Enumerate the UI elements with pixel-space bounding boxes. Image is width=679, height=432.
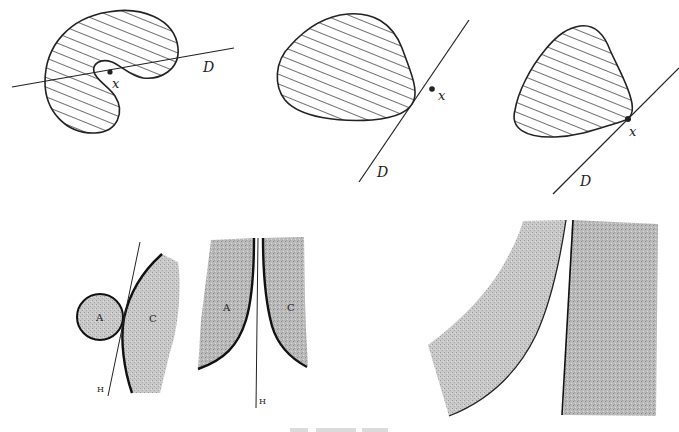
rectangular-region	[563, 220, 658, 416]
point-x	[107, 69, 112, 74]
convex-region	[514, 26, 632, 137]
line-d-label: D	[202, 59, 214, 75]
figure-bottom-right	[428, 220, 658, 416]
figure-bottom-middle: A C H	[198, 237, 308, 408]
set-a-label: A	[222, 302, 231, 313]
convex-region	[277, 14, 415, 121]
figure-top-left: x D	[12, 11, 234, 134]
line-h-label: H	[97, 385, 104, 394]
point-x-label: x	[112, 76, 120, 91]
set-c-label: C	[149, 313, 157, 324]
line-d-label: D	[376, 164, 388, 180]
caption-remnant	[290, 428, 388, 432]
point-x	[429, 86, 435, 92]
point-x	[625, 116, 631, 122]
line-h	[256, 238, 258, 408]
set-a-label: A	[95, 312, 104, 323]
region-c	[263, 237, 308, 366]
figure-canvas: x D x D x D A C H A C H	[0, 0, 679, 432]
line-h-label: H	[259, 397, 266, 406]
point-x-label: x	[629, 124, 637, 139]
set-c-label: C	[287, 302, 295, 313]
figure-bottom-left: A C H	[77, 242, 180, 396]
figure-top-middle: x D	[277, 14, 469, 182]
line-d-label: D	[579, 173, 591, 189]
figure-top-right: x D	[514, 26, 679, 194]
point-x-label: x	[438, 88, 446, 103]
